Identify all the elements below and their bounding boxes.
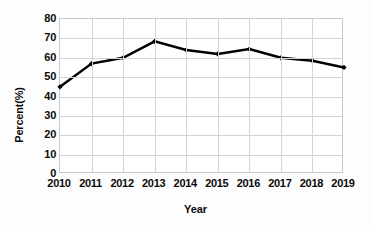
plot-area <box>59 18 343 173</box>
y-axis-tick-label: 70 <box>44 32 56 43</box>
gridline-horizontal <box>60 38 342 39</box>
x-axis-tick-label: 2013 <box>142 178 165 189</box>
gridline-vertical <box>155 19 156 172</box>
line-chart: Percent(%) 80706050403020100 20102011201… <box>0 0 371 230</box>
y-axis-tick-label: 50 <box>44 71 56 82</box>
x-axis-tick-label: 2019 <box>331 178 354 189</box>
x-axis-tick-label: 2014 <box>174 178 197 189</box>
series-line <box>60 41 344 87</box>
x-axis-tick-label: 2012 <box>110 178 133 189</box>
y-axis-tick-label: 80 <box>44 13 56 24</box>
y-axis-title-text: Percent(%) <box>13 87 25 142</box>
gridline-horizontal <box>60 97 342 98</box>
y-axis-tick-label: 20 <box>44 129 56 140</box>
x-axis-tick-label: 2016 <box>237 178 260 189</box>
x-axis-tick-label: 2017 <box>268 178 291 189</box>
gridline-vertical <box>312 19 313 172</box>
x-axis-tick-label: 2011 <box>79 178 102 189</box>
gridline-horizontal <box>60 77 342 78</box>
x-axis-title: Year <box>0 203 371 215</box>
gridline-vertical <box>123 19 124 172</box>
gridline-horizontal <box>60 58 342 59</box>
gridline-vertical <box>186 19 187 172</box>
x-axis-tick-label: 2018 <box>300 178 323 189</box>
x-axis-tick-label: 2015 <box>205 178 228 189</box>
x-axis-tick-label: 2010 <box>47 178 70 189</box>
y-axis-tick-label: 10 <box>44 148 56 159</box>
data-point-marker <box>341 65 346 70</box>
gridline-horizontal <box>60 155 342 156</box>
gridline-vertical <box>218 19 219 172</box>
y-axis-tick-label: 60 <box>44 51 56 62</box>
x-axis-title-text: Year <box>184 203 207 215</box>
gridline-horizontal <box>60 116 342 117</box>
gridline-vertical <box>92 19 93 172</box>
gridline-vertical <box>249 19 250 172</box>
y-axis-tick-label: 40 <box>44 90 56 101</box>
x-axis-tick-labels: 2010201120122013201420152016201720182019 <box>0 178 371 196</box>
gridline-vertical <box>281 19 282 172</box>
y-axis-tick-label: 30 <box>44 109 56 120</box>
gridline-horizontal <box>60 135 342 136</box>
